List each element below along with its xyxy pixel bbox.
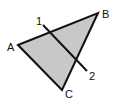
- vertex-label-c: C: [65, 88, 73, 100]
- diagram-canvas: A B C 1 2: [0, 0, 119, 100]
- vertex-label-b: B: [102, 8, 109, 20]
- line-label-2: 2: [89, 70, 95, 82]
- triangle-abc: [18, 13, 98, 90]
- vertex-label-a: A: [7, 41, 15, 53]
- line-label-1: 1: [36, 15, 42, 27]
- triangle-line-diagram: A B C 1 2: [0, 0, 119, 100]
